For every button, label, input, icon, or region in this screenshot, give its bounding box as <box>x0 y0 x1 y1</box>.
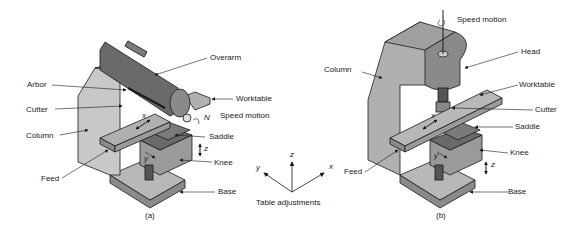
horizontal-milling-machine <box>78 41 210 208</box>
label-speed-motion-a: Speed motion <box>220 112 269 120</box>
table-adjustments-axes <box>264 162 324 192</box>
table-axis-z: z <box>290 151 294 159</box>
label-worktable-a: Worktable <box>236 95 272 103</box>
label-feed-b: Feed <box>344 168 362 176</box>
label-knee-b: Knee <box>510 149 529 157</box>
caption-b: (b) <box>436 212 446 220</box>
label-base-b: Base <box>508 188 526 196</box>
label-saddle-b: Saddle <box>515 123 540 131</box>
axis-x-a: x <box>142 112 146 120</box>
label-column-b: Column <box>324 66 352 74</box>
label-knee-a: Knee <box>214 159 233 167</box>
table-axis-y: y <box>256 164 260 172</box>
axis-z-a: z <box>204 145 208 153</box>
label-head-b: Head <box>521 48 540 56</box>
label-feed-a: Feed <box>41 175 59 183</box>
caption-a: (a) <box>145 212 155 220</box>
axis-z-b: z <box>491 161 495 169</box>
label-speed-symbol-a: N <box>204 114 210 122</box>
label-base-a: Base <box>218 188 236 196</box>
label-column-a: Column <box>26 132 54 140</box>
label-arbor-a: Arbor <box>27 81 47 89</box>
label-worktable-b: Worktable <box>519 81 555 89</box>
label-overarm-a: Overarm <box>210 54 241 62</box>
axis-x-b: x <box>431 112 435 120</box>
table-adjustments-title: Table adjustments <box>256 199 320 207</box>
table-axis-x: x <box>329 163 333 171</box>
axis-y-b: y <box>434 152 438 160</box>
label-cutter-a: Cutter <box>26 106 48 114</box>
label-speed-motion-b: Speed motion <box>457 16 506 24</box>
axis-y-a: y <box>144 155 148 163</box>
label-cutter-b: Cutter <box>535 106 557 114</box>
label-saddle-a: Saddle <box>209 133 234 141</box>
